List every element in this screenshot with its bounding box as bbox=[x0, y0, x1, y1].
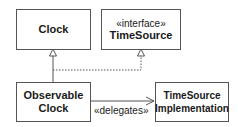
interface-name: TimeSource bbox=[110, 29, 173, 42]
class-timesource-implementation[interactable]: TimeSource Implementation bbox=[155, 82, 229, 122]
delegates-label: «delegates» bbox=[94, 105, 149, 116]
hollow-triangle-arrowhead-icon bbox=[138, 49, 145, 56]
class-name-line1: Observable bbox=[24, 89, 84, 102]
class-observable-clock[interactable]: Observable Clock bbox=[16, 82, 91, 122]
class-name-line1: TimeSource bbox=[163, 89, 220, 102]
class-name-line2: Implementation bbox=[155, 102, 229, 115]
class-name: Clock bbox=[39, 23, 69, 36]
class-name-line2: Clock bbox=[39, 102, 69, 115]
stereotype-label: «interface» bbox=[116, 18, 165, 29]
interface-timesource[interactable]: «interface» TimeSource bbox=[101, 9, 181, 50]
hollow-triangle-arrowhead-icon bbox=[50, 49, 57, 56]
class-clock[interactable]: Clock bbox=[16, 9, 91, 50]
realization-line bbox=[53, 56, 141, 70]
